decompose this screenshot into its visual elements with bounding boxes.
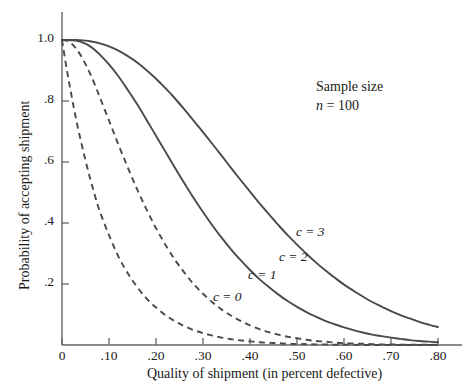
x-tick-label: .70 <box>371 349 411 363</box>
y-axis-title: Probability of accepting shipment <box>18 101 33 290</box>
x-tick-label: .60 <box>324 349 364 363</box>
x-axis-title: Quality of shipment (in percent defectiv… <box>147 367 382 382</box>
x-tick-label: .10 <box>89 349 129 363</box>
y-tick-label: 1.0 <box>10 31 54 45</box>
annotation-sample-size: Sample size <box>316 80 383 95</box>
annotation-n-value: = 100 <box>323 98 359 113</box>
curve-label-c3: c = 3 <box>296 225 325 239</box>
x-tick-label: .50 <box>277 349 317 363</box>
x-tick-label: .40 <box>230 349 270 363</box>
x-tick-label: .30 <box>183 349 223 363</box>
x-tick-label: .80 <box>418 349 458 363</box>
annotation-sample-n: n = 100 <box>316 99 359 114</box>
chart-figure: 1.0.8.6.4.2 0.10.20.30.40.50.60.70.80 Qu… <box>0 0 472 392</box>
x-tick-label: .20 <box>136 349 176 363</box>
x-tick-label: 0 <box>42 349 82 363</box>
curve-label-c0: c = 0 <box>213 290 242 304</box>
axes-group <box>62 12 462 345</box>
curve-label-c1: c = 1 <box>248 268 277 282</box>
curve-label-c2: c = 2 <box>279 250 308 264</box>
annotation-n-symbol: n <box>316 98 323 113</box>
plot-area <box>0 0 472 392</box>
